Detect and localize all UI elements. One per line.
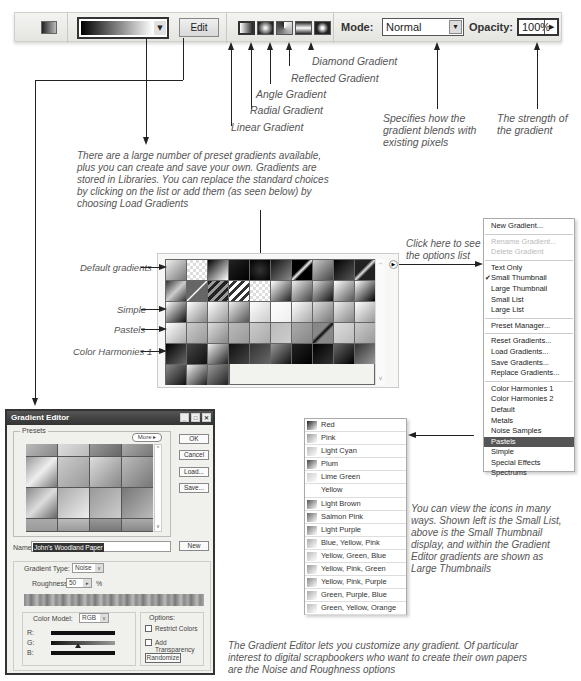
large-preset-thumbnail[interactable] xyxy=(58,519,89,531)
preset-thumbnail[interactable] xyxy=(250,302,270,322)
list-item[interactable]: Blue, Yellow, Pink xyxy=(305,537,406,550)
list-item[interactable]: Yellow, Pink, Green xyxy=(305,563,406,576)
list-item[interactable]: Yellow, Pink, Purple xyxy=(305,576,406,589)
large-preset-thumbnail[interactable] xyxy=(58,444,89,456)
preset-thumbnail[interactable] xyxy=(166,323,186,343)
chevron-down-icon[interactable]: v xyxy=(95,564,103,572)
diamond-gradient-button[interactable] xyxy=(314,21,331,35)
large-preset-thumbnail[interactable] xyxy=(26,519,57,531)
preset-thumbnail[interactable] xyxy=(355,260,375,280)
preset-thumbnail[interactable] xyxy=(187,302,207,322)
radial-gradient-button[interactable] xyxy=(257,21,274,35)
menu-item[interactable]: Preset Manager... xyxy=(484,321,574,332)
slider-handle[interactable] xyxy=(75,643,81,648)
opacity-input[interactable]: 100% ▶ xyxy=(517,18,559,36)
preset-thumbnail[interactable] xyxy=(166,302,186,322)
menu-item[interactable]: Color Harmonies 2 xyxy=(484,394,574,405)
linear-gradient-button[interactable] xyxy=(238,21,255,35)
menu-item[interactable]: Save Gradients... xyxy=(484,358,574,369)
list-item[interactable]: Red xyxy=(305,419,406,432)
list-item[interactable]: Light Brown xyxy=(305,498,406,511)
menu-item[interactable]: Large Thumbnail xyxy=(484,284,574,295)
preset-thumbnail[interactable] xyxy=(355,302,375,322)
menu-item[interactable]: Simple xyxy=(484,447,574,458)
menu-item[interactable]: Load Gradients... xyxy=(484,347,574,358)
preset-thumbnail[interactable] xyxy=(208,323,228,343)
preset-thumbnail[interactable] xyxy=(271,260,291,280)
preset-thumbnail[interactable] xyxy=(208,281,228,301)
preset-thumbnail[interactable] xyxy=(187,344,207,364)
chevron-up-icon[interactable]: ^ xyxy=(155,445,161,451)
large-preset-thumbnail[interactable] xyxy=(90,519,121,531)
gradient-swatch[interactable] xyxy=(81,21,153,35)
preset-thumbnail[interactable] xyxy=(313,260,333,280)
chevron-down-icon[interactable]: v xyxy=(155,523,161,529)
preset-thumbnail[interactable] xyxy=(271,302,291,322)
large-preset-thumbnail[interactable] xyxy=(26,488,57,518)
presets-scrollbar[interactable]: ^v xyxy=(154,444,162,532)
preset-thumbnail[interactable] xyxy=(229,260,249,280)
save-button[interactable]: Save... xyxy=(179,483,209,493)
preset-thumbnail[interactable] xyxy=(292,302,312,322)
list-item[interactable]: Light Purple xyxy=(305,524,406,537)
preset-thumbnail[interactable] xyxy=(292,260,312,280)
preset-thumbnail[interactable] xyxy=(187,260,207,280)
chevron-down-icon[interactable]: ▼ xyxy=(449,20,462,34)
maximize-icon[interactable]: □ xyxy=(191,413,200,422)
gradient-picker[interactable]: ▼ xyxy=(77,17,169,39)
chevron-right-icon[interactable]: ▶ xyxy=(544,20,557,34)
menu-item[interactable]: Metals xyxy=(484,416,574,427)
preset-thumbnail[interactable] xyxy=(187,365,207,385)
roughness-input[interactable]: 50 ▸ xyxy=(66,578,92,588)
angle-gradient-button[interactable] xyxy=(276,21,293,35)
restrict-colors-checkbox[interactable] xyxy=(145,625,152,632)
large-preset-thumbnail[interactable] xyxy=(122,488,153,518)
list-item[interactable]: Lime Green xyxy=(305,471,406,484)
list-item[interactable]: Pink xyxy=(305,432,406,445)
more-button[interactable]: More ▸ xyxy=(132,433,162,442)
chevron-up-icon[interactable]: ^ xyxy=(376,261,385,268)
preset-thumbnail[interactable] xyxy=(229,344,249,364)
preset-thumbnail[interactable] xyxy=(292,323,312,343)
menu-item[interactable]: Noise Samples xyxy=(484,426,574,437)
preset-thumbnail[interactable] xyxy=(208,365,228,385)
list-item[interactable]: Yellow, Green, Blue xyxy=(305,550,406,563)
menu-item[interactable]: Replace Gradients... xyxy=(484,368,574,379)
new-button[interactable]: New xyxy=(179,541,209,551)
r-channel-slider[interactable] xyxy=(51,631,115,635)
preset-thumbnail[interactable] xyxy=(334,323,354,343)
list-item[interactable]: Green, Purple, Blue xyxy=(305,589,406,602)
preset-thumbnail[interactable] xyxy=(313,323,333,343)
large-preset-thumbnail[interactable] xyxy=(122,457,153,487)
menu-item[interactable]: Color Harmonies 1 xyxy=(484,384,574,395)
large-preset-thumbnail[interactable] xyxy=(90,444,121,456)
list-item[interactable]: Green, Yellow, Orange xyxy=(305,602,406,615)
list-item[interactable]: Plum xyxy=(305,458,406,471)
preset-thumbnail[interactable] xyxy=(355,344,375,364)
preset-thumbnail[interactable] xyxy=(271,344,291,364)
menu-item[interactable]: Large List xyxy=(484,305,574,316)
preset-thumbnail[interactable] xyxy=(229,323,249,343)
preset-thumbnail[interactable] xyxy=(208,344,228,364)
minimize-icon[interactable]: _ xyxy=(180,413,189,422)
preset-thumbnail[interactable] xyxy=(334,302,354,322)
large-preset-thumbnail[interactable] xyxy=(122,519,153,531)
preset-thumbnail[interactable] xyxy=(271,281,291,301)
preset-scrollbar[interactable]: ^v xyxy=(375,259,385,385)
reflected-gradient-button[interactable] xyxy=(295,21,312,35)
preset-thumbnail[interactable] xyxy=(166,365,186,385)
randomize-button[interactable]: Randomize xyxy=(145,653,181,663)
preset-thumbnail[interactable] xyxy=(229,302,249,322)
menu-item[interactable]: Spectrums xyxy=(484,468,574,479)
large-preset-thumbnail[interactable] xyxy=(26,444,57,456)
color-model-select[interactable]: RGB v xyxy=(79,613,109,623)
preset-thumbnail[interactable] xyxy=(250,323,270,343)
add-transparency-checkbox[interactable] xyxy=(145,639,152,646)
menu-item[interactable]: Text Only xyxy=(484,263,574,274)
name-input[interactable]: John's Woodland Paper xyxy=(31,541,171,552)
cancel-button[interactable]: Cancel xyxy=(179,450,209,460)
gradient-type-select[interactable]: Noise v xyxy=(72,563,104,573)
large-preset-thumbnail[interactable] xyxy=(58,488,89,518)
preset-thumbnail[interactable] xyxy=(292,281,312,301)
preset-thumbnail[interactable] xyxy=(292,344,312,364)
